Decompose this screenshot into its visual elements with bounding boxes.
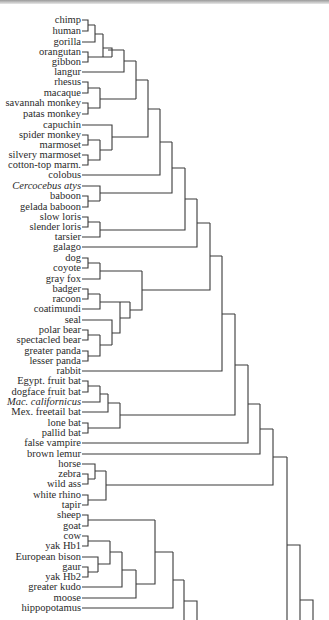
branch-loris	[82, 217, 100, 227]
branch-sheep-goat	[82, 515, 155, 526]
branch-great-apes	[82, 25, 103, 42]
branch-silvery-cottontop	[82, 140, 112, 165]
branch-root-left	[287, 457, 300, 620]
branch-cow-yak1	[82, 536, 110, 546]
branch-baboon-gelada	[82, 196, 100, 207]
branch-rabbit	[82, 256, 235, 371]
branch-hominoid	[103, 34, 124, 57]
branch-rhino-tapir	[82, 429, 287, 505]
branch-gaur-yak2	[82, 567, 98, 577]
branch-spider-marmoset	[82, 135, 100, 145]
branch-pandas	[82, 335, 112, 361]
branch-mex	[82, 394, 120, 412]
branch-moose	[82, 520, 173, 598]
branch-zebra-wildass	[82, 474, 95, 484]
branch-root-stub	[300, 600, 313, 620]
branch-lone-pallid	[82, 314, 248, 433]
branch-cercocebus	[82, 142, 185, 201]
branch-seal	[82, 223, 222, 345]
branch-rhesus-macaque	[82, 82, 100, 93]
branch-langur	[82, 50, 136, 72]
branch-galago	[82, 199, 210, 247]
branch-catarrhine	[136, 61, 148, 99]
branch-brown-lemur	[82, 404, 273, 454]
branch-tarsier	[82, 168, 197, 237]
branch-fruit-bats	[82, 381, 100, 392]
branch-grayfox	[82, 263, 142, 279]
branch-savannah-patas	[82, 88, 136, 114]
branch-horse	[82, 464, 106, 479]
branch-chimp-human	[82, 20, 95, 31]
branch-dog-coyote	[82, 258, 100, 268]
branch-hippo	[82, 552, 184, 608]
branch-hippo-stub	[184, 580, 197, 620]
branch-polar-spectacled	[82, 330, 100, 340]
branch-colobus	[82, 109, 172, 175]
branch-badger-racoon	[82, 289, 100, 299]
branch-orangutan-gibbon	[82, 52, 112, 62]
branch-mac	[82, 386, 108, 402]
branch-coatimundi	[82, 294, 130, 309]
dendrogram-branches	[0, 0, 329, 620]
branch-false-vampire	[82, 365, 260, 443]
